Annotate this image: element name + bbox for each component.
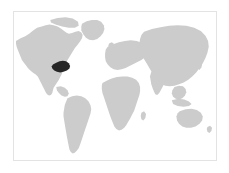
world-map-svg xyxy=(14,12,216,160)
locator-map-figure: World locator map xyxy=(13,11,217,161)
